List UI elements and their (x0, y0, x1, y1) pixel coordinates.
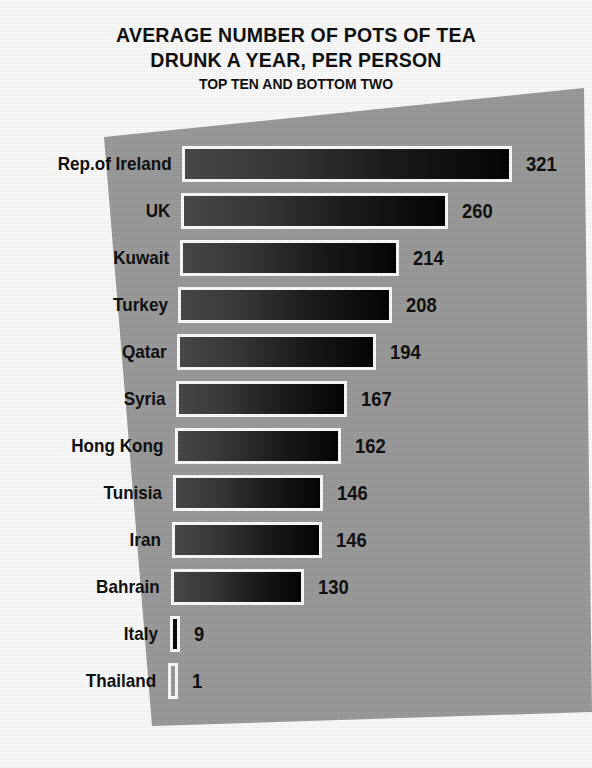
bar (176, 381, 348, 417)
chart-row: Kuwait214 (0, 238, 592, 278)
value-label: 130 (318, 576, 349, 599)
chart-title-line-1: AVERAGE NUMBER OF POTS OF TEA (21, 22, 572, 47)
bar (177, 334, 376, 370)
chart-title-line-2: DRUNK A YEAR, PER PERSON (21, 47, 572, 72)
bar (175, 428, 342, 464)
chart-row: Iran146 (0, 520, 592, 560)
category-label: Kuwait (113, 247, 169, 269)
value-label: 214 (413, 247, 444, 270)
chart-row: Hong Kong162 (0, 426, 592, 466)
chart-row: UK260 (0, 191, 592, 231)
category-label: Tunisia (104, 482, 163, 504)
chart-row: Qatar194 (0, 332, 592, 372)
category-label: Turkey (113, 294, 168, 316)
category-label: Rep.of Ireland (58, 153, 172, 175)
category-label: Iran (129, 529, 160, 551)
chart-row: Turkey208 (0, 285, 592, 325)
value-label: 208 (406, 294, 437, 317)
bar (168, 663, 178, 699)
bar (170, 616, 180, 652)
chart-subtitle: TOP TEN AND BOTTOM TWO (30, 74, 563, 93)
category-label: UK (146, 200, 171, 222)
category-label: Hong Kong (71, 435, 163, 457)
bar (182, 146, 512, 182)
value-label: 194 (390, 341, 421, 364)
bar (173, 475, 323, 511)
bar (178, 287, 392, 323)
category-label: Thailand (86, 670, 156, 692)
value-label: 146 (337, 482, 368, 505)
category-label: Qatar (122, 341, 167, 363)
chart-title-block: AVERAGE NUMBER OF POTS OF TEA DRUNK A YE… (0, 22, 592, 93)
value-label: 9 (194, 623, 204, 646)
value-label: 167 (361, 388, 392, 411)
value-label: 162 (355, 435, 386, 458)
bar (171, 569, 305, 605)
chart-rows: Rep.of Ireland321UK260Kuwait214Turkey208… (0, 0, 592, 768)
chart-row: Thailand1 (0, 661, 592, 701)
bar (181, 193, 448, 229)
value-label: 146 (336, 529, 367, 552)
bar (180, 240, 400, 276)
category-label: Bahrain (96, 576, 160, 598)
category-label: Syria (123, 388, 165, 410)
chart-row: Rep.of Ireland321 (0, 144, 592, 184)
category-label: Italy (124, 623, 158, 645)
chart-row: Tunisia146 (0, 473, 592, 513)
value-label: 260 (462, 200, 493, 223)
chart-canvas: AVERAGE NUMBER OF POTS OF TEA DRUNK A YE… (0, 0, 592, 768)
bar (172, 522, 322, 558)
chart-row: Syria167 (0, 379, 592, 419)
value-label: 1 (192, 670, 202, 693)
chart-row: Bahrain130 (0, 567, 592, 607)
chart-row: Italy9 (0, 614, 592, 654)
value-label: 321 (526, 153, 557, 176)
